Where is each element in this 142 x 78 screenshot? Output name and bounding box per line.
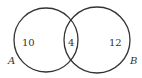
set-a-only-count: 10 [22, 37, 35, 48]
set-b-label: B [129, 55, 137, 66]
intersection-count: 4 [68, 37, 74, 48]
set-a-label: A [7, 55, 15, 66]
set-b-only-count: 12 [109, 37, 122, 48]
venn-diagram: 10 4 12 A B [0, 0, 142, 78]
